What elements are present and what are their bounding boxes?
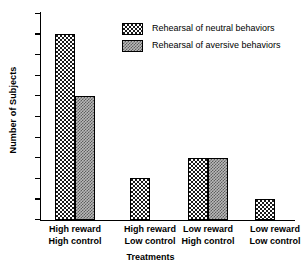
x-category-label-4-line-2: Low control	[240, 236, 301, 248]
chart-legend: Rehearsal of neutral behaviors Rehearsal…	[122, 22, 281, 56]
legend-swatch-neutral-icon	[122, 23, 143, 35]
y-axis-line	[40, 12, 41, 221]
legend-label-aversive: Rehearsal of aversive behaviors	[152, 41, 281, 50]
x-category-label-3-line-1: Low reward	[173, 224, 243, 236]
y-tick-9	[35, 33, 40, 34]
bar-aversive-group-3	[208, 158, 228, 220]
bar-neutral-group-4	[255, 199, 275, 220]
x-category-label-4-line-1: Low reward	[240, 224, 301, 236]
x-axis-category-labels: High rewardHigh controlHigh rewardLow co…	[40, 224, 295, 250]
x-axis-label: Treatments	[0, 252, 301, 262]
y-tick-10	[35, 13, 40, 14]
x-category-label-1-line-2: High control	[40, 236, 110, 248]
bar-chart: Number of Subjects 012345678910 Rehearsa…	[0, 0, 301, 267]
legend-item-aversive: Rehearsal of aversive behaviors	[122, 39, 281, 52]
bar-neutral-group-3	[188, 158, 208, 220]
x-category-label-1: High rewardHigh control	[40, 224, 110, 247]
legend-item-neutral: Rehearsal of neutral behaviors	[122, 22, 281, 35]
y-axis-label: Number of Subjects	[8, 50, 18, 170]
y-tick-1	[35, 198, 40, 199]
legend-swatch-aversive-icon	[122, 40, 143, 52]
x-category-label-1-line-1: High reward	[40, 224, 110, 236]
x-axis-line	[40, 220, 295, 221]
y-tick-0	[35, 219, 40, 220]
y-tick-6	[35, 95, 40, 96]
y-tick-8	[35, 54, 40, 55]
x-category-label-3: Low rewardHigh control	[173, 224, 243, 247]
bar-aversive-group-1	[75, 96, 95, 220]
bar-neutral-group-1	[55, 34, 75, 220]
y-tick-2	[35, 178, 40, 179]
x-category-label-3-line-2: High control	[173, 236, 243, 248]
legend-label-neutral: Rehearsal of neutral behaviors	[152, 24, 275, 33]
x-category-label-4: Low rewardLow control	[240, 224, 301, 247]
y-tick-3	[35, 157, 40, 158]
y-tick-5	[35, 116, 40, 117]
y-tick-7	[35, 75, 40, 76]
bar-neutral-group-2	[130, 178, 150, 219]
y-tick-4	[35, 137, 40, 138]
